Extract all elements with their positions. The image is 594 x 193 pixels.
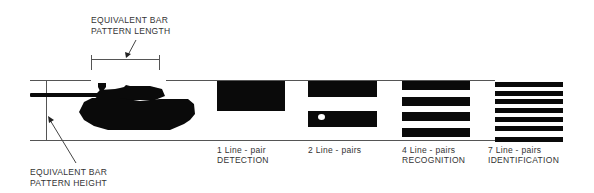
pattern-4-level: IDENTIFICATION: [488, 155, 559, 165]
bar: [402, 112, 470, 121]
height-label-line-2: PATTERN HEIGHT: [30, 178, 107, 188]
bar: [308, 81, 377, 97]
pattern-1-caption: 1 Line - pair: [217, 145, 266, 155]
length-arrow-icon: [125, 40, 136, 58]
length-label-line-1: EQUIVALENT BAR: [91, 15, 168, 25]
bar: [402, 128, 470, 137]
height-label-line-1: EQUIVALENT BAR: [30, 167, 107, 177]
bar: [495, 117, 563, 122]
pattern-3-level: RECOGNITION: [402, 155, 465, 165]
pattern-2-caption: 2 Line - pairs: [308, 145, 361, 155]
bar: [495, 91, 563, 96]
bar: [402, 97, 470, 106]
bar: [495, 99, 563, 104]
bar: [495, 137, 563, 142]
bar: [495, 126, 563, 131]
pattern-3-caption: 4 Line - pairs: [402, 145, 455, 155]
bar: [402, 81, 470, 90]
bar: [495, 82, 563, 87]
bar: [217, 81, 285, 111]
pattern-1-level: DETECTION: [217, 155, 269, 165]
height-arrow-icon: [48, 116, 76, 163]
tank-silhouette-icon: [30, 83, 195, 130]
length-label-line-2: PATTERN LENGTH: [91, 26, 170, 36]
pattern-4-caption: 7 Line - pairs: [488, 145, 541, 155]
blemish-spot: [318, 114, 325, 120]
bar: [495, 108, 563, 113]
